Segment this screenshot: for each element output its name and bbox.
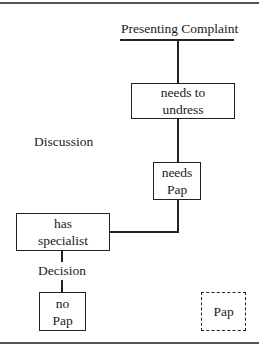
node-line: needs [162, 164, 193, 181]
frame-bottom-rule [0, 342, 259, 344]
node-line: needs to [161, 84, 206, 101]
node-needs-to-undress: needs to undress [131, 83, 235, 119]
node-line: Pap [162, 181, 193, 198]
connector-needs-pap-to-specialist [109, 231, 179, 233]
connector-specialist-to-decision [61, 251, 63, 262]
node-line: no [52, 295, 72, 312]
node-line: Pap [213, 303, 233, 320]
connector-decision-to-no-pap [61, 280, 63, 292]
node-line: has [38, 215, 88, 232]
node-line: undress [161, 101, 206, 118]
decision-label: Decision [38, 263, 86, 278]
node-has-specialist: has specialist [16, 213, 110, 251]
node-no-pap: no Pap [39, 292, 86, 331]
frame-top-rule [0, 2, 259, 4]
presenting-complaint-label: Presenting Complaint [121, 21, 238, 36]
connector-undress-to-needs-pap [177, 119, 179, 162]
connector-needs-pap-down [177, 200, 179, 233]
discussion-label: Discussion [34, 134, 93, 149]
node-needs-pap: needs Pap [153, 162, 201, 200]
node-pap-dashed: Pap [201, 292, 246, 331]
node-line: specialist [38, 232, 88, 249]
connector-complaint-to-undress [177, 40, 179, 83]
node-line: Pap [52, 312, 72, 329]
